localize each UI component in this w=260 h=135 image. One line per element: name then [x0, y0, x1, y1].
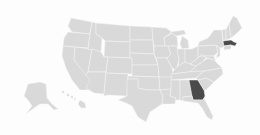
- state-new-mexico[interactable]: [104, 73, 128, 96]
- state-hawaii[interactable]: [62, 91, 86, 108]
- state-kansas[interactable]: [132, 65, 159, 77]
- state-new-york[interactable]: [198, 30, 224, 48]
- us-map-svg: [0, 0, 260, 135]
- us-map: United States map: [0, 0, 260, 135]
- state-maine[interactable]: [229, 16, 242, 38]
- state-colorado[interactable]: [106, 57, 132, 74]
- state-arizona[interactable]: [86, 72, 106, 94]
- state-michigan[interactable]: [180, 36, 189, 49]
- state-north-dakota[interactable]: [130, 26, 153, 40]
- state-arkansas[interactable]: [159, 77, 172, 90]
- state-washington[interactable]: [68, 18, 92, 34]
- state-alaska[interactable]: [24, 82, 58, 114]
- state-south-dakota[interactable]: [130, 40, 154, 54]
- state-oregon[interactable]: [63, 32, 90, 48]
- state-wyoming[interactable]: [104, 41, 130, 58]
- state-connecticut[interactable]: [224, 45, 231, 50]
- state-vermont[interactable]: [222, 29, 226, 40]
- state-nebraska[interactable]: [130, 53, 158, 65]
